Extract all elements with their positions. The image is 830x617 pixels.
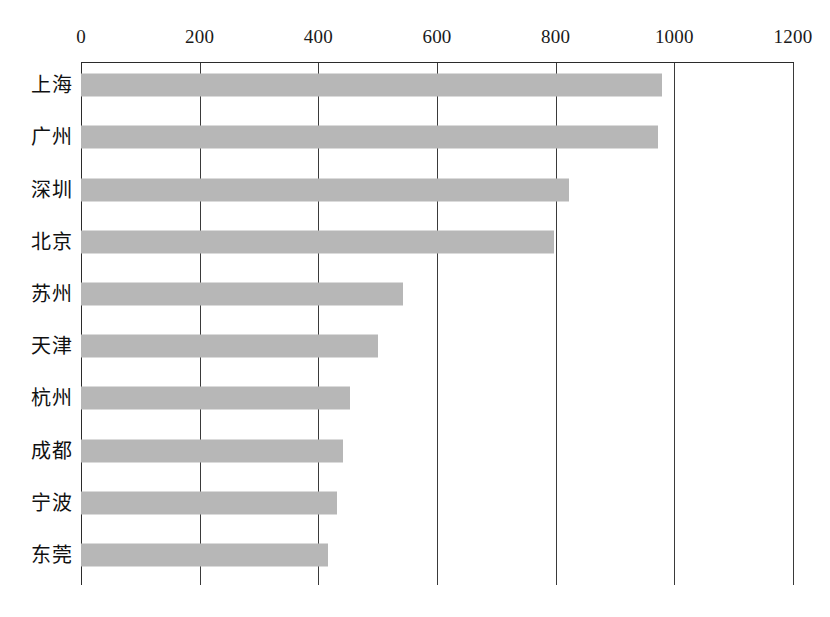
bar bbox=[81, 282, 403, 305]
bar bbox=[81, 543, 328, 566]
horizontal-bar-chart: 020040060080010001200 上海广州深圳北京苏州天津杭州成都宁波… bbox=[0, 0, 830, 617]
y-category-label: 天津 bbox=[0, 335, 73, 357]
x-tick-label: 1000 bbox=[655, 26, 694, 48]
y-category-label: 苏州 bbox=[0, 283, 73, 305]
gridline-1200 bbox=[793, 63, 794, 585]
bar bbox=[81, 387, 350, 410]
x-tick-label: 600 bbox=[422, 26, 451, 48]
y-category-label: 杭州 bbox=[0, 387, 73, 409]
bar bbox=[81, 230, 554, 253]
bar bbox=[81, 491, 337, 514]
x-tick-label: 200 bbox=[185, 26, 214, 48]
bar bbox=[81, 439, 343, 462]
plot-area bbox=[81, 63, 793, 585]
y-category-label: 北京 bbox=[0, 231, 73, 253]
x-tick-label: 800 bbox=[541, 26, 570, 48]
y-category-label: 深圳 bbox=[0, 179, 73, 201]
y-category-label: 东莞 bbox=[0, 544, 73, 566]
bar bbox=[81, 335, 378, 358]
y-category-label: 上海 bbox=[0, 74, 73, 96]
y-category-label: 成都 bbox=[0, 440, 73, 462]
bar bbox=[81, 178, 569, 201]
y-category-label: 宁波 bbox=[0, 492, 73, 514]
bar bbox=[81, 126, 658, 149]
gridline-1000 bbox=[674, 63, 675, 585]
x-tick-label: 1200 bbox=[774, 26, 813, 48]
x-tick-label: 0 bbox=[76, 26, 86, 48]
y-category-label: 广州 bbox=[0, 126, 73, 148]
bar bbox=[81, 74, 662, 97]
chart-page: 020040060080010001200 上海广州深圳北京苏州天津杭州成都宁波… bbox=[0, 0, 830, 617]
x-tick-label: 400 bbox=[304, 26, 333, 48]
